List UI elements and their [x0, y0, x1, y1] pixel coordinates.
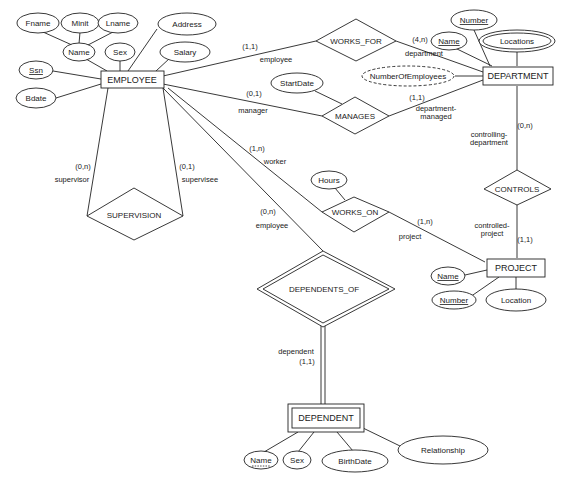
attribute-address: Address — [158, 13, 216, 35]
works-for-department-cardinality: (4,n) — [412, 35, 428, 44]
attribute-fname: Fname — [17, 13, 59, 33]
works-on-employee-cardinality: (1,n) — [249, 144, 265, 153]
entity-department: DEPARTMENT — [483, 67, 553, 85]
svg-text:Bdate: Bdate — [26, 94, 47, 103]
svg-text:WORKS_ON: WORKS_ON — [332, 208, 379, 217]
svg-text:Name: Name — [250, 456, 272, 465]
attribute-dependent-name-partial-key: Name — [244, 451, 278, 469]
manages-department-role-2: managed — [420, 112, 451, 121]
works-for-employee-cardinality: (1,1) — [242, 42, 258, 51]
works-on-employee-role: worker — [263, 157, 287, 166]
svg-text:Ssn: Ssn — [29, 66, 43, 75]
attribute-ssn-key: Ssn — [19, 61, 53, 79]
svg-text:Number: Number — [460, 16, 489, 25]
entity-project: PROJECT — [487, 259, 545, 277]
dependents-of-employee-role: employee — [256, 221, 289, 230]
svg-text:Number: Number — [440, 296, 469, 305]
svg-text:Name: Name — [437, 272, 459, 281]
attribute-number-of-employees-derived: NumberOfEmployees — [362, 66, 454, 86]
supervision-supervisee-role: supervisee — [182, 175, 218, 184]
entity-dependent-weak: DEPENDENT — [288, 404, 364, 432]
relationship-works-on: WORKS_ON — [322, 197, 389, 232]
supervision-supervisee-cardinality: (0,1) — [179, 162, 195, 171]
svg-text:Fname: Fname — [26, 19, 51, 28]
connector-lines — [43, 29, 517, 452]
svg-text:DEPARTMENT: DEPARTMENT — [487, 71, 549, 81]
attribute-bdate: Bdate — [16, 88, 56, 108]
svg-text:NumberOfEmployees: NumberOfEmployees — [370, 72, 446, 81]
svg-text:DEPENDENTS_OF: DEPENDENTS_OF — [289, 285, 359, 294]
svg-text:Location: Location — [501, 296, 531, 305]
works-on-project-cardinality: (1,n) — [417, 217, 433, 226]
svg-text:Sex: Sex — [113, 48, 127, 57]
manages-department-cardinality: (1,1) — [409, 93, 425, 102]
attribute-dept-number-key: Number — [451, 10, 497, 30]
svg-text:Sex: Sex — [290, 456, 304, 465]
relationship-supervision: SUPERVISION — [87, 188, 183, 240]
dependents-of-dependent-cardinality: (1,1) — [299, 357, 315, 366]
svg-text:WORKS_FOR: WORKS_FOR — [330, 37, 382, 46]
relationship-dependents-of-identifying: DEPENDENTS_OF — [257, 251, 395, 327]
attribute-relationship: Relationship — [398, 436, 488, 464]
manages-employee-role: manager — [238, 106, 268, 115]
controls-project-cardinality: (1,1) — [517, 235, 533, 244]
svg-text:Lname: Lname — [106, 19, 131, 28]
works-for-department-role: department — [405, 49, 444, 58]
svg-text:BirthDate: BirthDate — [338, 457, 372, 466]
svg-text:Hours: Hours — [318, 176, 339, 185]
svg-text:StartDate: StartDate — [280, 79, 314, 88]
svg-text:PROJECT: PROJECT — [495, 263, 538, 273]
controls-department-role-2: department — [470, 138, 509, 147]
svg-text:DEPENDENT: DEPENDENT — [298, 413, 354, 423]
dependents-of-employee-cardinality: (0,n) — [260, 207, 276, 216]
attribute-salary: Salary — [160, 42, 210, 62]
relationship-controls: CONTROLS — [484, 170, 551, 205]
manages-employee-cardinality: (0,1) — [246, 89, 262, 98]
relationship-manages: MANAGES — [322, 97, 389, 134]
svg-text:Salary: Salary — [174, 48, 197, 57]
controls-department-cardinality: (0,n) — [517, 121, 533, 130]
svg-text:Locations: Locations — [500, 37, 534, 46]
relationship-works-for: WORKS_FOR — [316, 19, 396, 61]
works-on-project-role: project — [399, 232, 422, 241]
svg-text:Minit: Minit — [72, 19, 90, 28]
entity-employee: EMPLOYEE — [101, 71, 164, 88]
attribute-proj-number-key: Number — [432, 291, 476, 309]
attribute-dept-name-key: Name — [431, 32, 467, 50]
svg-text:MANAGES: MANAGES — [335, 112, 375, 121]
supervision-supervisor-role: supervisor — [55, 175, 90, 184]
svg-text:SUPERVISION: SUPERVISION — [107, 211, 162, 220]
er-diagram: Fname Minit Lname Name Sex Address Salar… — [0, 0, 569, 481]
svg-text:Name: Name — [68, 48, 90, 57]
svg-text:Address: Address — [172, 20, 201, 29]
attribute-sex: Sex — [105, 43, 135, 61]
controls-project-role-2: project — [481, 229, 504, 238]
attribute-proj-name-key: Name — [431, 267, 465, 285]
svg-text:Name: Name — [438, 37, 460, 46]
attribute-start-date: StartDate — [271, 73, 323, 93]
attribute-proj-location: Location — [486, 289, 546, 311]
dependents-of-dependent-role: dependent — [278, 347, 314, 356]
attribute-birth-date: BirthDate — [322, 450, 388, 472]
svg-text:CONTROLS: CONTROLS — [495, 185, 539, 194]
attribute-dependent-sex: Sex — [283, 451, 311, 469]
attribute-minit: Minit — [61, 13, 99, 33]
works-for-employee-role: employee — [260, 55, 293, 64]
svg-text:EMPLOYEE: EMPLOYEE — [107, 75, 157, 85]
attribute-hours: Hours — [311, 171, 347, 189]
supervision-supervisor-cardinality: (0,n) — [75, 162, 91, 171]
attribute-lname: Lname — [98, 13, 138, 33]
attribute-locations-multivalued: Locations — [479, 30, 555, 52]
svg-text:Relationship: Relationship — [421, 446, 466, 455]
attribute-name-composite: Name — [63, 43, 95, 61]
